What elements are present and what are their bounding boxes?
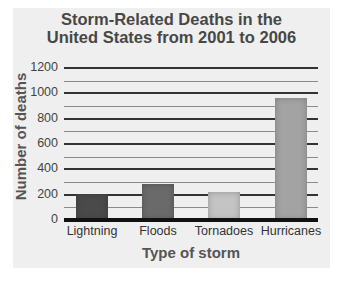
chart-title: Storm-Related Deaths in the United State… bbox=[13, 10, 330, 46]
y-tick-label: 600 bbox=[20, 136, 58, 150]
bar-hurricanes bbox=[275, 98, 307, 220]
y-tick-label: 1200 bbox=[20, 60, 58, 74]
major-gridline bbox=[64, 92, 318, 94]
bar-floods bbox=[142, 184, 174, 220]
x-axis-label: Type of storm bbox=[64, 244, 318, 261]
x-category-label: Lightning bbox=[57, 224, 127, 238]
bar-tornadoes bbox=[208, 192, 240, 220]
x-axis-baseline bbox=[64, 218, 318, 222]
x-category-label: Hurricanes bbox=[256, 224, 326, 238]
chart-title-line-1: Storm-Related Deaths in the bbox=[13, 10, 330, 28]
chart-title-line-2: United States from 2001 to 2006 bbox=[13, 28, 330, 46]
bar-lightning bbox=[76, 194, 108, 220]
y-tick-label: 800 bbox=[20, 111, 58, 125]
major-gridline bbox=[64, 67, 318, 69]
y-tick-label: 400 bbox=[20, 161, 58, 175]
minor-gridline bbox=[64, 81, 318, 82]
x-category-label: Floods bbox=[123, 224, 193, 238]
y-tick-label: 0 bbox=[20, 212, 58, 226]
y-tick-label: 1000 bbox=[20, 85, 58, 99]
plot-area bbox=[64, 60, 318, 222]
y-tick-label: 200 bbox=[20, 187, 58, 201]
x-category-label: Tornadoes bbox=[189, 224, 259, 238]
